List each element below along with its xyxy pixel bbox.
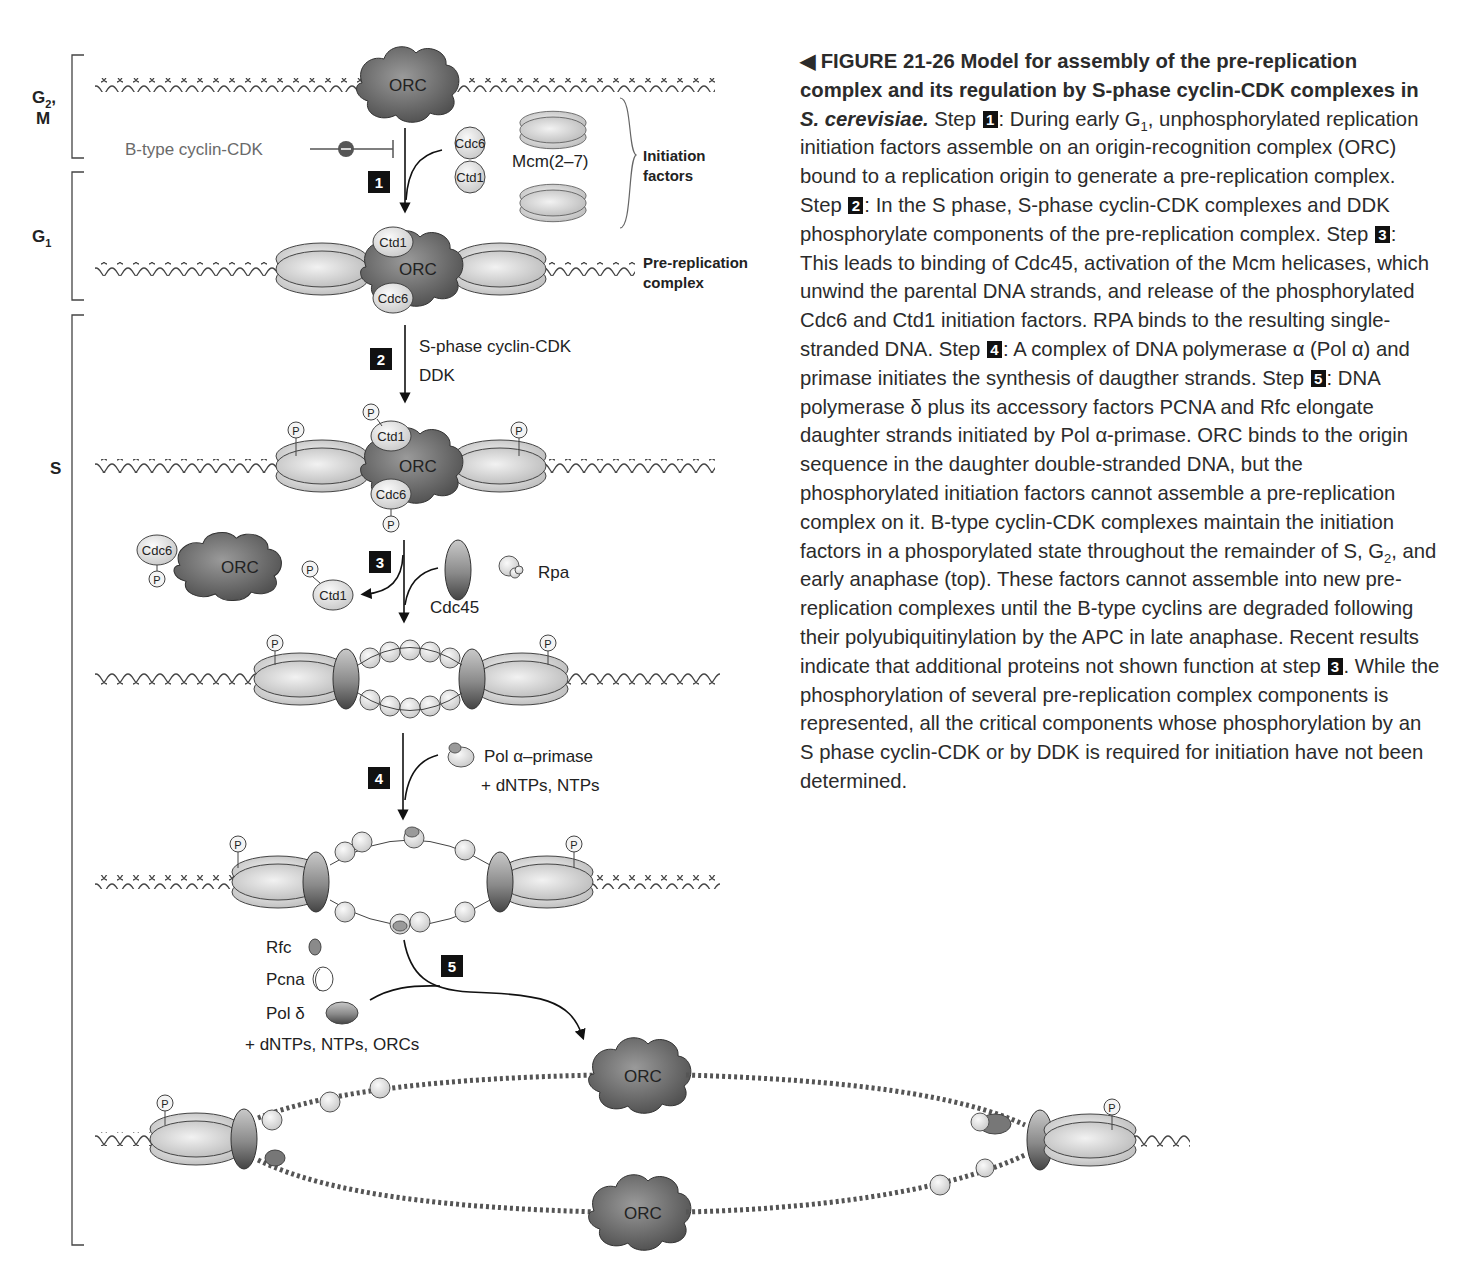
svg-text:P: P bbox=[1108, 1102, 1115, 1114]
caption-step-badge: 3 bbox=[1328, 658, 1343, 675]
caption-step-badge: 2 bbox=[848, 197, 863, 214]
caption-body: Step 1: During early G1, unphosphorylate… bbox=[800, 108, 1439, 792]
figure-number: ◀ FIGURE 21-26 bbox=[800, 50, 955, 72]
caption-step-badge: 1 bbox=[983, 111, 998, 128]
caption-step-badge: 3 bbox=[1375, 226, 1390, 243]
figure-caption: ◀ FIGURE 21-26 Model for assembly of the… bbox=[800, 47, 1440, 796]
caption-step-badge: 4 bbox=[987, 341, 1002, 358]
figure-organism: S. cerevisiae. bbox=[800, 108, 929, 130]
caption-step-badge: 5 bbox=[1311, 370, 1326, 387]
